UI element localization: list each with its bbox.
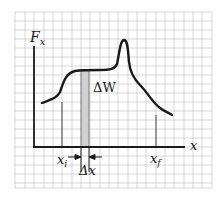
y-axis-symbol: F [30, 29, 40, 45]
force-curve [42, 40, 172, 115]
y-axis-label: Fx [30, 30, 45, 47]
xf-subscript: f [157, 158, 160, 168]
xi-label: xi [57, 153, 67, 169]
x-axis-symbol: x [190, 138, 197, 153]
delta-x-text: Δx [79, 163, 96, 178]
delta-w-label: ΔW [93, 81, 116, 94]
xi-subscript: i [64, 159, 67, 169]
work-strip [81, 70, 89, 147]
x-axis-label: x [190, 139, 197, 152]
delta-x-label: Δx [79, 164, 96, 177]
delta-w-text: ΔW [93, 80, 116, 95]
xf-label: xf [150, 152, 161, 168]
y-axis-subscript: x [40, 36, 46, 47]
